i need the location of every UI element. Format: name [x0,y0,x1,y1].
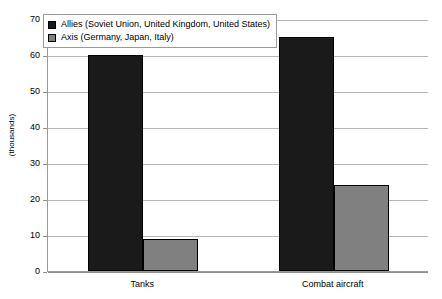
y-axis-tick-mark [43,272,47,273]
y-axis-tick-label: 60 [8,51,40,60]
y-axis-tick-label: 10 [8,231,40,240]
legend-item-label: Axis (Germany, Japan, Italy) [61,32,174,43]
gridline [48,272,428,273]
y-axis-tick-label: 70 [8,15,40,24]
legend-item-label: Allies (Soviet Union, United Kingdom, Un… [61,19,270,30]
y-axis-tick-label: 0 [8,267,40,276]
x-axis-category-label: Combat aircraft [273,279,393,289]
bar-chart: (thousands) 010203040506070 TanksCombat … [0,0,442,299]
legend-item: Axis (Germany, Japan, Italy) [48,31,270,44]
chart-legend: Allies (Soviet Union, United Kingdom, Un… [43,14,277,48]
y-axis-tick-label: 20 [8,195,40,204]
legend-item: Allies (Soviet Union, United Kingdom, Un… [48,18,270,31]
bar [143,239,198,271]
bar [88,55,143,271]
black-square-icon [48,21,56,29]
bar [279,37,334,271]
x-axis-category-label: Tanks [82,279,202,289]
plot-area [47,20,428,272]
gray-square-icon [48,34,56,42]
bar [334,185,389,271]
y-axis-title: (thousands) [7,90,17,180]
